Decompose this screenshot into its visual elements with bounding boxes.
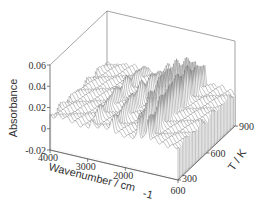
z-tick-label: 0.06 bbox=[29, 60, 47, 71]
z-tick-label: 0.02 bbox=[29, 102, 47, 113]
y-tick-label: 600 bbox=[211, 148, 226, 159]
y-tick-label: 300 bbox=[182, 173, 197, 184]
y-tick-label: 900 bbox=[239, 121, 254, 132]
svg-text:-1: -1 bbox=[142, 187, 154, 201]
y-axis-label: T / K bbox=[225, 146, 248, 172]
z-tick-label: 0.04 bbox=[29, 81, 47, 92]
waterfall-chart: 0.060.040.020-0.024000300020006003006009… bbox=[0, 0, 261, 211]
z-axis-label: Absorbance bbox=[7, 79, 19, 138]
z-tick-label: 0 bbox=[41, 123, 46, 134]
x-tick-label: 600 bbox=[171, 185, 186, 196]
